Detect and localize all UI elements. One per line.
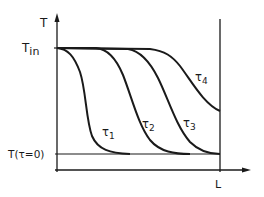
tick-label-tin: Tin (21, 41, 39, 58)
x-axis-arrow (242, 168, 251, 173)
series-label-tau4: τ4 (195, 70, 208, 86)
y-axis-label: T (39, 16, 48, 30)
series-label-tau1: τ1 (102, 125, 115, 141)
series-label-tau2: τ2 (142, 117, 155, 133)
tick-label-t0: T(τ=0) (7, 148, 44, 160)
x-axis-label: L (215, 178, 222, 191)
y-axis-arrow (55, 13, 60, 22)
series-label-tau3: τ3 (183, 116, 196, 132)
curve-tau1 (57, 48, 130, 154)
curve-tau3 (57, 48, 220, 154)
diagram: T L Tin T(τ=0) τ1 τ2 τ3 τ4 (0, 0, 264, 197)
